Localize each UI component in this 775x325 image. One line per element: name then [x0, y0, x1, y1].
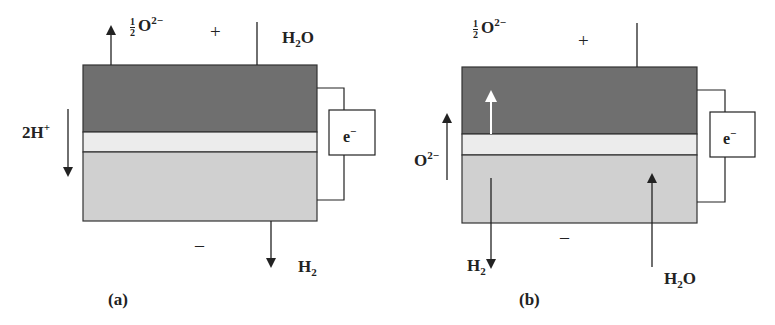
subscript: 2 — [480, 265, 486, 277]
panel-a-electrolyte-layer — [83, 132, 317, 152]
fraction-denominator: 2 — [473, 30, 478, 40]
species-label: H — [282, 28, 295, 47]
panel-a-electron-label: e− — [343, 126, 356, 145]
fraction-numerator: 1 — [130, 17, 135, 28]
cell-diagram-graphics — [0, 0, 775, 325]
panel-b-water-reactant: H2O — [664, 270, 696, 290]
charge-label: 2− — [494, 16, 506, 28]
species-label: O — [301, 28, 314, 47]
panel-b-electrolyte-layer — [462, 134, 697, 155]
panel-a-proton-label: 2H+ — [22, 122, 50, 141]
fraction-denominator: 2 — [130, 28, 135, 38]
charge-label: − — [350, 125, 356, 137]
species-label: O — [683, 269, 696, 288]
panel-a-top-reactant: 12O2− — [130, 15, 163, 38]
species-label: H — [664, 269, 677, 288]
panel-b-plus-sign: + — [578, 31, 589, 50]
panel-a-hydrogen-product: H2 — [298, 258, 317, 278]
panel-a-minus-sign: – — [195, 236, 204, 254]
panel-a-plus-sign: + — [210, 22, 221, 41]
panel-a-circuit-wire — [317, 88, 344, 110]
panel-b-minus-sign: – — [560, 228, 569, 246]
charge-label: − — [730, 127, 736, 139]
panel-a-cathode-layer — [83, 152, 317, 221]
subscript: 2 — [311, 266, 317, 278]
panel-b-hydrogen-product: H2 — [467, 257, 486, 277]
panel-b-electron-label: e− — [723, 128, 736, 147]
panel-b-anode-layer — [462, 67, 697, 134]
charge-label: 2− — [427, 149, 439, 161]
panel-b-circuit-wire-bottom — [697, 157, 725, 202]
species-label: H — [467, 256, 480, 275]
fraction-numerator: 1 — [473, 19, 478, 30]
charge-label: + — [44, 121, 50, 133]
panel-a-cell — [68, 22, 375, 263]
panel-b-caption: (b) — [519, 291, 540, 308]
panel-b-cell — [447, 23, 755, 267]
species-label: O — [138, 16, 151, 35]
charge-label: 2− — [151, 14, 163, 26]
panel-a-anode-layer — [83, 65, 317, 132]
species-label: O — [414, 151, 427, 170]
panel-a-caption: (a) — [108, 291, 128, 308]
panel-b-circuit-wire — [697, 90, 725, 112]
panel-b-oxide-label: O2− — [414, 150, 439, 169]
panel-a-water-product: H2O — [282, 29, 314, 49]
species-label: 2H — [22, 123, 44, 142]
species-label: H — [298, 257, 311, 276]
panel-a-circuit-wire-bottom — [317, 155, 344, 200]
panel-b-cathode-layer — [462, 155, 697, 223]
species-label: O — [481, 18, 494, 37]
panel-b-top-product: 12O2− — [473, 17, 506, 40]
